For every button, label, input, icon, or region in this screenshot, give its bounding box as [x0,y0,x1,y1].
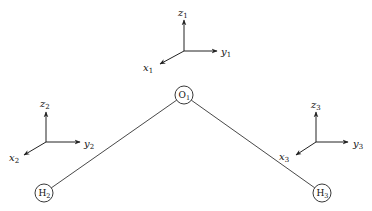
water-molecule-coordinate-diagram: z1y1x1z2y2x2z3y3x3 O1H2H3 [0,0,372,211]
frame3-y-axis-label: y3 [352,138,363,151]
frame1-x-axis-label: x1 [143,62,153,75]
frame1-axes: z1y1x1 [143,7,231,75]
frame2-x-axis-arrow [24,142,46,155]
atoms: O1H2H3 [35,86,331,202]
frame1-z-axis-label: z1 [177,7,188,20]
frame3-axes: z3y3x3 [279,99,363,164]
bond-O1-H2 [51,100,176,188]
frame2-x-axis-label: x2 [9,152,19,165]
frame2-y-axis-label: y2 [83,138,94,151]
atom-H3: H3 [313,184,331,202]
atom-O1: O1 [175,86,193,104]
frame3-x-axis-arrow [296,142,316,155]
frame3-x-axis-label: x3 [279,151,289,164]
frame1-y-axis-label: y1 [220,46,231,59]
frame3-z-axis-label: z3 [310,99,321,112]
frame2-axes: z2y2x2 [9,98,94,165]
frame1-x-axis-arrow [160,51,184,64]
atom-H2: H2 [35,184,53,202]
frame2-z-axis-label: z2 [39,98,50,111]
bond-O1-H3 [191,100,314,188]
